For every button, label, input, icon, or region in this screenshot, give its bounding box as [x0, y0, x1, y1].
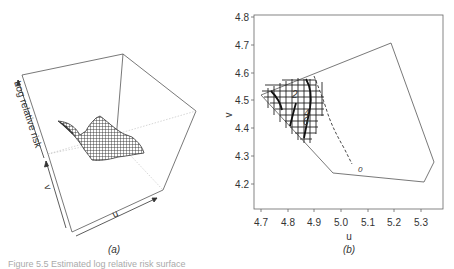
axis-label-u-a: u [110, 207, 120, 219]
x-tick-label: 5.1 [361, 217, 375, 228]
contour-4 [290, 103, 296, 126]
figure: Log relative risk v u (a) 4.8 4.7 4.6 4.… [0, 0, 454, 269]
panel-label-a: (a) [108, 244, 120, 255]
contour-label-6: 6 [303, 116, 309, 127]
x-tick-label: 5.0 [334, 217, 348, 228]
y-tick-label: 4.5 [235, 95, 249, 106]
contour-lines [271, 76, 352, 164]
axis-arrows [17, 80, 158, 236]
y-tick-label: 4.7 [235, 40, 249, 51]
contour-0 [314, 76, 352, 164]
x-tick-label: 4.7 [254, 217, 268, 228]
x-tick-labels: 4.7 4.8 4.9 5.0 5.1 5.2 5.3 [254, 217, 428, 228]
panel-label-b: (b) [343, 244, 355, 255]
y-axis-label-v: v [223, 113, 234, 118]
y-tick-label: 4.8 [235, 12, 249, 23]
panel-b-contour: 4.8 4.7 4.6 4.5 4.4 4.3 4.2 4.7 4.8 4.9 … [223, 12, 443, 255]
contour-label-0: 0 [358, 165, 363, 174]
figure-caption: Figure 5.5 Estimated log relative risk s… [8, 259, 186, 269]
plot-frame [254, 15, 443, 209]
x-tick-label: 5.2 [387, 217, 401, 228]
u-arrow-icon [152, 198, 157, 202]
x-tick-label: 4.8 [281, 217, 295, 228]
x-tick-label: 5.3 [414, 217, 428, 228]
y-tick-label: 4.2 [235, 179, 249, 190]
x-ticks [261, 209, 421, 212]
v-arrow-icon [45, 161, 49, 167]
contour-label-2: 2 [291, 89, 298, 100]
axis-label-log-relative-risk: Log relative risk [12, 79, 44, 150]
significance-hatch [262, 78, 324, 143]
y-tick-label: 4.4 [235, 123, 249, 134]
x-tick-label: 4.9 [307, 217, 321, 228]
y-ticks [251, 17, 254, 184]
axis-label-v-a: v [42, 183, 54, 191]
risk-surface [58, 116, 144, 160]
x-axis-label-u: u [346, 231, 352, 242]
y-tick-label: 4.3 [235, 151, 249, 162]
convex-hull-boundary [261, 43, 434, 182]
contour-labels: 0 2 4 6 [291, 89, 363, 174]
y-tick-label: 4.6 [235, 68, 249, 79]
panel-a-3d-surface: Log relative risk v u (a) [12, 54, 196, 255]
y-tick-labels: 4.8 4.7 4.6 4.5 4.4 4.3 4.2 [235, 12, 249, 190]
